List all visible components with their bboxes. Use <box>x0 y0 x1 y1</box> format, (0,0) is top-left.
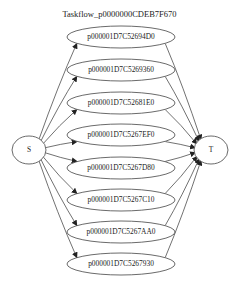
edge-s-to-task <box>42 156 76 193</box>
edge-s-to-task <box>44 152 77 161</box>
edge-task-to-t <box>165 160 201 257</box>
task-node-label: p000001D7C52681E0 <box>71 98 171 107</box>
task-node-label: p000001D7C5267C10 <box>71 195 171 204</box>
edge-task-to-t <box>165 156 197 193</box>
edge-s-to-task <box>39 44 77 141</box>
taskflow-graph <box>0 0 239 288</box>
task-node-label: p000001D7C5267EF0 <box>71 130 171 139</box>
node-source-label: S <box>14 145 44 154</box>
edge-s-to-task <box>44 142 77 148</box>
task-node-label: p000001D7C5267930 <box>71 259 171 268</box>
task-node-label: p000001D7C5269360 <box>71 65 171 74</box>
node-sink-label: T <box>196 145 226 154</box>
task-node-label: p000001D7C5267D80 <box>71 163 171 172</box>
task-node-label: p000001D7C5267AA0 <box>71 227 171 236</box>
edge-task-to-t <box>165 44 201 140</box>
task-node-label: p000001D7C52694D0 <box>71 32 171 41</box>
edge-task-to-t <box>165 142 195 148</box>
edge-task-to-t <box>165 153 195 162</box>
edge-s-to-task <box>39 160 77 258</box>
